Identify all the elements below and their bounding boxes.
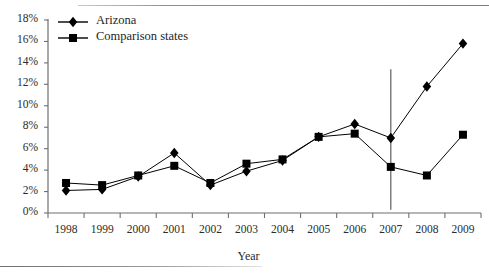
data-point-marker [423,171,431,179]
y-axis-tick-label: 8% [0,119,38,131]
chart-container: 0%2%4%6%8%10%12%14%16%18% 19981999200020… [0,0,489,274]
data-point-marker [170,162,178,170]
y-axis-tick-label: 16% [0,33,38,45]
series-line-comparison-states [66,134,463,185]
y-axis-tick-label: 12% [0,76,38,88]
x-axis-tick-label: 2009 [437,223,489,235]
data-point-marker [242,160,250,168]
square-icon [69,34,77,42]
y-axis-tick-label: 2% [0,184,38,196]
y-axis-tick-label: 14% [0,55,38,67]
data-point-marker [315,133,323,141]
data-point-marker [459,131,467,139]
series-line-arizona [66,44,463,191]
y-axis-tick-label: 10% [0,98,38,110]
y-axis-tick-label: 6% [0,141,38,153]
legend-item-comparison-states-label: Comparison states [96,29,188,44]
data-point-marker [98,181,106,189]
data-point-marker [351,130,359,138]
legend-marker-layer [58,17,88,42]
data-point-marker [62,179,70,187]
data-point-marker [170,148,179,158]
data-point-marker [387,163,395,171]
data-point-marker [279,155,287,163]
y-axis-tick-label: 4% [0,162,38,174]
data-point-marker [350,119,359,129]
diamond-icon [69,17,78,27]
data-point-marker [206,179,214,187]
y-axis-tick-label: 18% [0,12,38,24]
x-axis-title: Year [0,249,489,264]
y-axis-tick-label: 0% [0,205,38,217]
axis-layer [44,19,481,218]
legend-item-arizona-label: Arizona [96,13,136,28]
data-point-marker [134,171,142,179]
series-layer [62,38,467,195]
